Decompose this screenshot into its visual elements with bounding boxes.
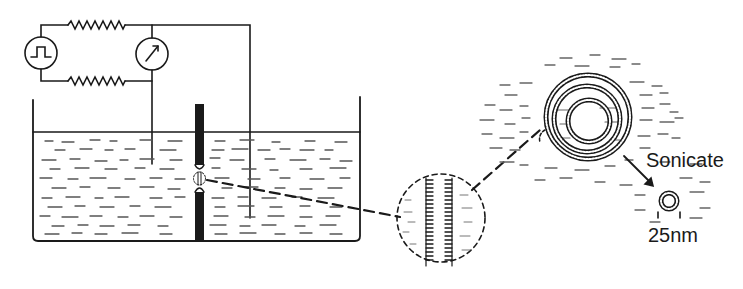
multilamellar-liposome bbox=[540, 72, 632, 160]
scale-ticks bbox=[658, 212, 680, 218]
bath bbox=[33, 97, 360, 241]
meter-icon bbox=[136, 38, 168, 70]
lipid-heads bbox=[426, 180, 452, 260]
small-vesicle bbox=[658, 193, 680, 218]
sonicate-label: Sonicate bbox=[646, 150, 724, 170]
bilayer-inset bbox=[397, 174, 485, 266]
magnify-line-2 bbox=[472, 130, 540, 190]
pulse-generator-icon bbox=[25, 37, 57, 69]
vesicle-size-label: 25nm bbox=[648, 225, 698, 245]
wire bbox=[41, 69, 68, 81]
magnify-line bbox=[207, 180, 400, 217]
wire bbox=[125, 25, 250, 218]
wire bbox=[41, 25, 68, 37]
resistor-bottom-icon bbox=[68, 77, 125, 85]
diagram-canvas bbox=[0, 0, 743, 289]
resistor-top-icon bbox=[68, 21, 125, 29]
